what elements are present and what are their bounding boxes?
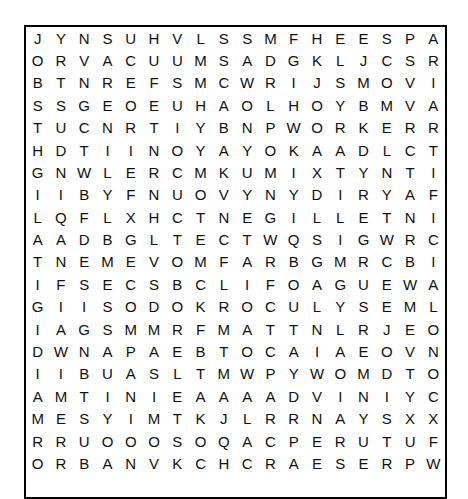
grid-letter[interactable]: M [49, 385, 72, 407]
grid-letter[interactable]: T [73, 139, 96, 161]
grid-letter[interactable]: F [212, 251, 235, 273]
grid-letter[interactable]: S [96, 27, 119, 49]
grid-letter[interactable]: B [166, 273, 189, 295]
grid-letter[interactable]: V [305, 385, 328, 407]
grid-letter[interactable]: S [398, 49, 421, 71]
grid-letter[interactable]: B [398, 251, 421, 273]
grid-letter[interactable]: O [26, 49, 49, 71]
grid-letter[interactable]: Q [212, 430, 235, 452]
grid-letter[interactable]: S [375, 407, 398, 429]
grid-letter[interactable]: S [212, 49, 235, 71]
grid-letter[interactable]: Y [236, 184, 259, 206]
grid-letter[interactable]: V [166, 27, 189, 49]
grid-letter[interactable]: T [26, 251, 49, 273]
grid-letter[interactable]: B [189, 340, 212, 362]
grid-letter[interactable]: D [305, 184, 328, 206]
grid-letter[interactable]: G [329, 273, 352, 295]
grid-letter[interactable]: L [375, 139, 398, 161]
grid-letter[interactable]: I [329, 228, 352, 250]
grid-letter[interactable]: L [142, 228, 165, 250]
grid-letter[interactable]: O [166, 139, 189, 161]
grid-letter[interactable]: Q [282, 228, 305, 250]
grid-letter[interactable]: O [142, 430, 165, 452]
grid-letter[interactable]: O [236, 296, 259, 318]
grid-letter[interactable]: L [305, 296, 328, 318]
grid-letter[interactable]: N [422, 340, 445, 362]
grid-letter[interactable]: Y [329, 94, 352, 116]
grid-letter[interactable]: U [236, 161, 259, 183]
grid-letter[interactable]: R [119, 117, 142, 139]
grid-letter[interactable]: F [282, 27, 305, 49]
grid-letter[interactable]: I [49, 363, 72, 385]
grid-letter[interactable]: W [73, 161, 96, 183]
grid-letter[interactable]: O [166, 251, 189, 273]
grid-letter[interactable]: G [26, 161, 49, 183]
grid-letter[interactable]: A [26, 228, 49, 250]
grid-letter[interactable]: R [352, 184, 375, 206]
grid-letter[interactable]: O [119, 296, 142, 318]
grid-letter[interactable]: A [236, 49, 259, 71]
grid-letter[interactable]: A [142, 340, 165, 362]
grid-letter[interactable]: A [329, 139, 352, 161]
grid-letter[interactable]: T [142, 117, 165, 139]
grid-letter[interactable]: F [422, 184, 445, 206]
grid-letter[interactable]: I [26, 184, 49, 206]
grid-letter[interactable]: E [375, 273, 398, 295]
grid-letter[interactable]: C [119, 49, 142, 71]
grid-letter[interactable]: V [398, 340, 421, 362]
grid-letter[interactable]: T [166, 407, 189, 429]
grid-letter[interactable]: A [305, 139, 328, 161]
grid-letter[interactable]: T [236, 228, 259, 250]
grid-letter[interactable]: Y [189, 139, 212, 161]
grid-letter[interactable]: M [96, 251, 119, 273]
grid-letter[interactable]: W [398, 273, 421, 295]
grid-letter[interactable]: K [189, 296, 212, 318]
grid-letter[interactable]: Y [282, 363, 305, 385]
grid-letter[interactable]: D [142, 296, 165, 318]
grid-letter[interactable]: O [422, 363, 445, 385]
grid-letter[interactable]: G [119, 228, 142, 250]
grid-letter[interactable]: O [119, 430, 142, 452]
grid-letter[interactable]: O [189, 184, 212, 206]
grid-letter[interactable]: A [236, 318, 259, 340]
grid-letter[interactable]: V [212, 184, 235, 206]
grid-letter[interactable]: M [26, 407, 49, 429]
grid-letter[interactable]: W [282, 117, 305, 139]
grid-letter[interactable]: M [352, 363, 375, 385]
grid-letter[interactable]: P [259, 363, 282, 385]
grid-letter[interactable]: O [375, 72, 398, 94]
grid-letter[interactable]: N [73, 340, 96, 362]
grid-letter[interactable]: M [375, 94, 398, 116]
grid-letter[interactable]: N [119, 452, 142, 474]
grid-letter[interactable]: N [212, 206, 235, 228]
grid-letter[interactable]: S [166, 72, 189, 94]
grid-letter[interactable]: T [375, 430, 398, 452]
grid-letter[interactable]: N [352, 385, 375, 407]
grid-letter[interactable]: C [259, 430, 282, 452]
grid-letter[interactable]: V [398, 94, 421, 116]
grid-letter[interactable]: U [119, 27, 142, 49]
grid-letter[interactable]: B [96, 228, 119, 250]
grid-letter[interactable]: S [236, 27, 259, 49]
grid-letter[interactable]: J [26, 27, 49, 49]
grid-letter[interactable]: D [259, 49, 282, 71]
grid-letter[interactable]: F [49, 273, 72, 295]
grid-letter[interactable]: Y [49, 27, 72, 49]
grid-letter[interactable]: A [282, 340, 305, 362]
grid-letter[interactable]: D [352, 139, 375, 161]
grid-letter[interactable]: V [142, 452, 165, 474]
grid-letter[interactable]: U [96, 363, 119, 385]
grid-letter[interactable]: O [166, 296, 189, 318]
grid-letter[interactable]: O [119, 94, 142, 116]
grid-letter[interactable]: H [282, 94, 305, 116]
grid-letter[interactable]: O [305, 94, 328, 116]
grid-letter[interactable]: D [49, 139, 72, 161]
grid-letter[interactable]: N [73, 27, 96, 49]
grid-letter[interactable]: R [26, 430, 49, 452]
grid-letter[interactable]: K [305, 49, 328, 71]
grid-letter[interactable]: R [49, 49, 72, 71]
grid-letter[interactable]: M [259, 161, 282, 183]
grid-letter[interactable]: I [166, 117, 189, 139]
grid-letter[interactable]: P [282, 430, 305, 452]
grid-letter[interactable]: R [398, 228, 421, 250]
